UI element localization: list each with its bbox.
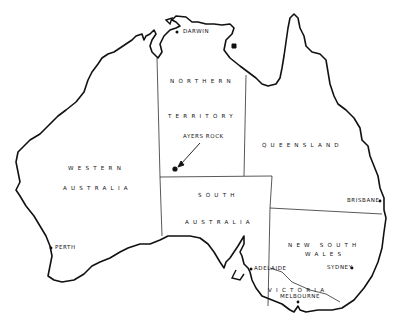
label-new-south: NEW SOUTH (288, 243, 361, 249)
island-gulf (232, 44, 236, 48)
label-perth: PERTH (55, 245, 76, 251)
ayers-rock-arrow (178, 143, 200, 167)
label-darwin: DARWIN (183, 29, 209, 35)
label-western: WESTERN (68, 166, 125, 172)
label-northern: NORTHERN (170, 79, 235, 85)
darwin-dot (176, 31, 179, 34)
label-western-australia: AUSTRALIA (63, 186, 132, 192)
label-queensland: QUEENSLAND (262, 143, 343, 149)
label-south-australia: AUSTRALIA (185, 220, 254, 226)
label-sydney: SYDNEY (327, 265, 353, 271)
island-north (166, 18, 172, 24)
label-melbourne: MELBOURNE (280, 294, 320, 300)
adelaide-dot (250, 268, 253, 271)
label-ayers-rock: AYERS ROCK (183, 134, 224, 140)
map-outline (0, 0, 396, 330)
label-wales: WALES (305, 252, 345, 258)
australia-map: NORTHERN TERRITORY WESTERN AUSTRALIA QUE… (0, 0, 396, 330)
label-adelaide: ADELAIDE (254, 266, 287, 272)
perth-dot (50, 247, 53, 250)
melbourne-dot (297, 301, 300, 304)
label-territory: TERRITORY (168, 114, 237, 120)
ayers-rock-marker (172, 166, 177, 171)
label-brisbane: BRISBANE (347, 198, 380, 204)
label-south: SOUTH (198, 193, 239, 199)
tasman-gulf (232, 270, 244, 280)
